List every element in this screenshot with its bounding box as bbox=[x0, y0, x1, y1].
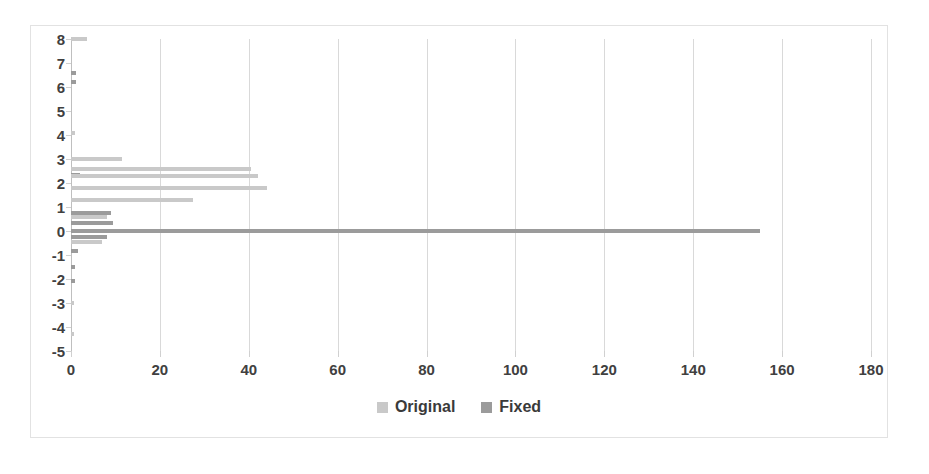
y-tick--1 bbox=[66, 255, 71, 256]
x-axis-label-40: 40 bbox=[240, 361, 257, 378]
x-tick-60 bbox=[338, 351, 339, 357]
x-tick-180 bbox=[871, 351, 872, 357]
y-axis-label-2: 2 bbox=[25, 175, 65, 192]
gridline-140 bbox=[693, 39, 694, 351]
bar bbox=[71, 249, 78, 253]
y-axis-label--1: -1 bbox=[25, 247, 65, 264]
bar bbox=[71, 229, 760, 233]
x-axis-label-80: 80 bbox=[418, 361, 435, 378]
gridline-60 bbox=[338, 39, 339, 351]
bar bbox=[71, 167, 251, 171]
legend-swatch-icon bbox=[377, 402, 388, 413]
legend-label: Original bbox=[395, 398, 455, 416]
x-axis-label-120: 120 bbox=[592, 361, 617, 378]
bar bbox=[71, 221, 113, 225]
bar bbox=[71, 235, 107, 239]
x-tick-0 bbox=[71, 351, 72, 357]
gridline-100 bbox=[515, 39, 516, 351]
y-axis-label-0: 0 bbox=[25, 223, 65, 240]
legend-swatch-icon bbox=[481, 402, 492, 413]
gridline-20 bbox=[160, 39, 161, 351]
bar bbox=[71, 131, 75, 135]
y-axis-label--2: -2 bbox=[25, 271, 65, 288]
y-axis-label-1: 1 bbox=[25, 199, 65, 216]
x-axis-label-180: 180 bbox=[858, 361, 883, 378]
bar bbox=[71, 198, 193, 202]
chart-legend: OriginalFixed bbox=[31, 398, 887, 416]
legend-item-fixed[interactable]: Fixed bbox=[481, 398, 541, 416]
gridline-80 bbox=[427, 39, 428, 351]
bar bbox=[71, 301, 74, 305]
bar bbox=[71, 279, 75, 283]
x-axis-label-140: 140 bbox=[681, 361, 706, 378]
y-axis-label-8: 8 bbox=[25, 31, 65, 48]
x-tick-100 bbox=[515, 351, 516, 357]
legend-label: Fixed bbox=[499, 398, 541, 416]
gridline-120 bbox=[604, 39, 605, 351]
bar bbox=[71, 265, 75, 269]
bar bbox=[71, 240, 102, 244]
bar bbox=[71, 332, 74, 336]
bar bbox=[71, 215, 107, 219]
y-axis-label--5: -5 bbox=[25, 343, 65, 360]
y-tick-4 bbox=[66, 135, 71, 136]
y-tick-5 bbox=[66, 111, 71, 112]
bar bbox=[71, 174, 258, 178]
y-axis-label--3: -3 bbox=[25, 295, 65, 312]
y-tick--5 bbox=[66, 351, 71, 352]
x-axis-label-160: 160 bbox=[770, 361, 795, 378]
x-axis-label-100: 100 bbox=[503, 361, 528, 378]
x-tick-40 bbox=[249, 351, 250, 357]
x-tick-20 bbox=[160, 351, 161, 357]
legend-item-original[interactable]: Original bbox=[377, 398, 455, 416]
bar bbox=[71, 80, 76, 84]
x-axis-label-20: 20 bbox=[152, 361, 169, 378]
x-tick-160 bbox=[782, 351, 783, 357]
plot-area: 020406080100120140160180 876543210-1-2-3… bbox=[71, 39, 871, 351]
x-tick-120 bbox=[604, 351, 605, 357]
y-axis-label-5: 5 bbox=[25, 103, 65, 120]
gridline-160 bbox=[782, 39, 783, 351]
bar bbox=[71, 186, 267, 190]
y-axis-label-3: 3 bbox=[25, 151, 65, 168]
x-tick-140 bbox=[693, 351, 694, 357]
gridline-180 bbox=[871, 39, 872, 351]
y-tick-1 bbox=[66, 207, 71, 208]
y-tick-6 bbox=[66, 87, 71, 88]
y-tick-7 bbox=[66, 63, 71, 64]
bar bbox=[71, 157, 122, 161]
x-tick-80 bbox=[427, 351, 428, 357]
chart-container: 020406080100120140160180 876543210-1-2-3… bbox=[30, 25, 888, 438]
bar bbox=[71, 71, 76, 75]
y-tick-2 bbox=[66, 183, 71, 184]
x-axis-label-60: 60 bbox=[329, 361, 346, 378]
gridline-40 bbox=[249, 39, 250, 351]
y-axis-label-6: 6 bbox=[25, 79, 65, 96]
bar bbox=[71, 37, 87, 41]
y-axis-label-4: 4 bbox=[25, 127, 65, 144]
y-axis-label--4: -4 bbox=[25, 319, 65, 336]
y-tick--4 bbox=[66, 327, 71, 328]
plot-wrapper: 020406080100120140160180 876543210-1-2-3… bbox=[31, 26, 887, 437]
x-axis-label-0: 0 bbox=[67, 361, 75, 378]
y-axis-label-7: 7 bbox=[25, 55, 65, 72]
